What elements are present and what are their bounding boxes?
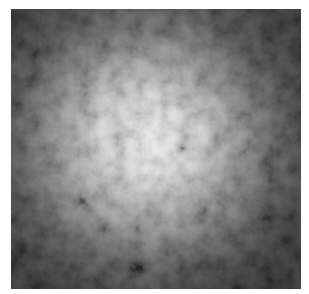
cloud-texture xyxy=(11,9,301,289)
noise-cloud-image xyxy=(11,9,301,289)
